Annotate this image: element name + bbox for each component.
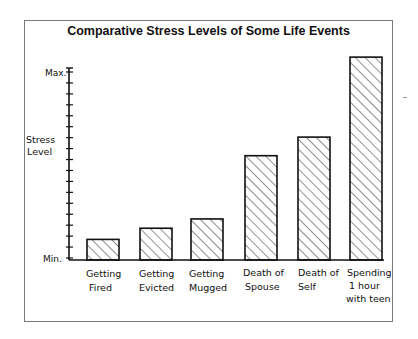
cat-label-spouse-1: Death of — [243, 267, 285, 278]
cat-label-teen-2: 1 hour — [349, 280, 380, 291]
cat-label-fired-2: Fired — [89, 282, 112, 293]
bar-spending-1-hour-with-teen — [350, 57, 382, 260]
y-axis — [66, 68, 73, 260]
y-axis-title-line1: Stress — [26, 134, 55, 145]
cat-label-evicted-2: Evicted — [139, 282, 174, 293]
bar-death-of-self — [298, 137, 330, 260]
cat-label-teen-3: with teen — [346, 293, 391, 304]
cat-label-fired-1: Getting — [86, 268, 121, 279]
cat-label-evicted-1: Getting — [139, 268, 174, 279]
bar-getting-mugged — [191, 219, 223, 260]
bar-getting-evicted — [140, 228, 172, 260]
bar-getting-fired — [87, 239, 119, 260]
y-min-label: Min. — [43, 254, 62, 264]
cat-label-self-2: Self — [298, 281, 317, 292]
chart-plot: Max. Min. Stress Level Getting Fired Get… — [0, 0, 418, 339]
cat-label-teen-1: Spending — [347, 267, 392, 278]
cat-label-mugged-1: Getting — [189, 268, 224, 279]
y-axis-title-line2: Level — [27, 146, 52, 157]
cat-label-self-1: Death of — [298, 267, 340, 278]
bars — [87, 57, 382, 260]
x-tick-labels: Getting Fired Getting Evicted Getting Mu… — [86, 267, 392, 304]
bar-death-of-spouse — [245, 156, 277, 260]
cat-label-mugged-2: Mugged — [189, 282, 227, 293]
y-max-label: Max. — [45, 68, 66, 78]
cat-label-spouse-2: Spouse — [245, 281, 280, 292]
